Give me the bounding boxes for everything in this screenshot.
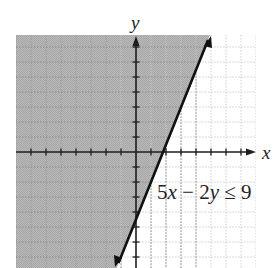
x-axis-arrow-icon bbox=[246, 149, 256, 156]
inequality-graph: y x 5x − 2y ≤ 9 bbox=[0, 0, 278, 268]
x-axis-label: x bbox=[261, 142, 271, 163]
y-axis-label: y bbox=[129, 12, 140, 33]
inequality-label: 5x − 2y ≤ 9 bbox=[157, 180, 252, 204]
